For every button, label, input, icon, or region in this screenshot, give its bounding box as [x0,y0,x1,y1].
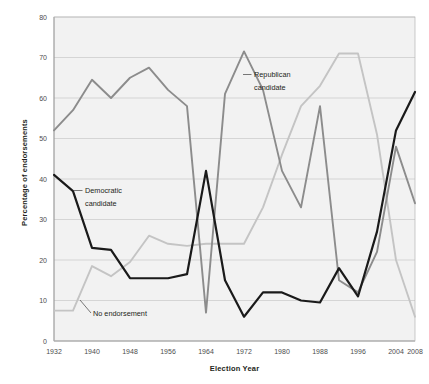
y-tick-label: 40 [39,176,47,183]
annotation-label: No endorsement [93,309,147,318]
line-chart-plot: 01020304050607080 1932194019481956196419… [0,0,429,384]
y-tick-label: 10 [39,297,47,304]
y-tick-label: 80 [39,14,47,21]
x-tick-label: 1948 [122,348,138,355]
x-tick-label: 1940 [84,348,100,355]
y-tick-label: 20 [39,257,47,264]
y-tick-label: 50 [39,135,47,142]
x-tick-label: 2004 [388,348,404,355]
x-tick-label: 2008 [407,348,423,355]
x-tick-label: 1964 [198,348,214,355]
x-tick-label: 1972 [236,348,252,355]
x-tick-label: 1956 [160,348,176,355]
y-axis-ticks: 01020304050607080 [39,14,47,345]
x-tick-label: 1980 [274,348,290,355]
x-tick-label: 1932 [46,348,62,355]
y-tick-label: 70 [39,54,47,61]
x-tick-label: 1996 [350,348,366,355]
y-tick-label: 30 [39,216,47,223]
y-tick-label: 60 [39,95,47,102]
x-tick-label: 1988 [312,348,328,355]
y-tick-label: 0 [43,338,47,345]
chart-figure: Percentage of endorsements 0102030405060… [0,0,429,384]
x-axis-ticks: 1932194019481956196419721980198819962004… [46,348,423,355]
x-axis-title: Election Year [54,364,415,373]
